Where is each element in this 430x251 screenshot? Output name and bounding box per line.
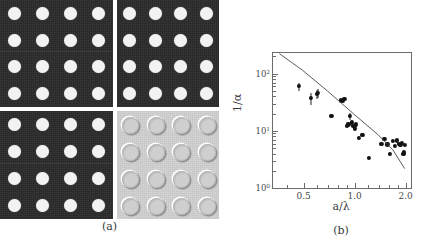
nanohole	[149, 87, 162, 100]
nanohole	[8, 87, 21, 100]
y-axis-tick-label: 101	[256, 125, 271, 136]
nanohole	[8, 60, 21, 73]
nanohole	[200, 87, 213, 100]
nanohole	[149, 7, 162, 20]
panel-a-caption: (a)	[0, 220, 219, 233]
nanohole	[36, 145, 49, 158]
y-axis-title: 1/α	[231, 94, 244, 112]
theory-curve	[272, 52, 410, 187]
nanohole	[36, 172, 49, 185]
nanohole	[8, 7, 21, 20]
nanohole	[123, 34, 136, 47]
nanohole	[199, 171, 216, 188]
panel-b-chart: 1/α 1001011020.51.02.0 a/λ (b)	[219, 0, 430, 251]
nanohole	[200, 7, 213, 20]
nanohole	[149, 34, 162, 47]
nanohole	[199, 198, 216, 215]
nanohole	[36, 87, 49, 100]
nanohole	[8, 34, 21, 47]
nanohole	[92, 34, 105, 47]
y-axis-tick-label: 100	[256, 183, 271, 194]
panel-b-caption: (b)	[272, 224, 410, 237]
nanohole	[64, 34, 77, 47]
y-axis-tick-label: 102	[256, 68, 271, 79]
x-axis-title: a/λ	[272, 200, 410, 213]
micrograph-bottom-right	[117, 111, 219, 219]
nanohole	[8, 145, 21, 158]
nanohole	[64, 7, 77, 20]
nanohole	[8, 172, 21, 185]
nanohole	[174, 34, 187, 47]
nanohole	[199, 144, 216, 161]
nanohole	[36, 34, 49, 47]
nanohole	[148, 144, 165, 161]
nanohole	[200, 34, 213, 47]
micrograph-top-right	[117, 0, 219, 107]
nanohole	[8, 118, 21, 131]
nanohole	[36, 118, 49, 131]
nanohole	[148, 117, 165, 134]
theory-curve-path	[279, 54, 404, 169]
y-axis-major-tick	[273, 188, 278, 189]
micrograph-bottom-left	[0, 111, 113, 219]
micrograph-top-left	[0, 0, 113, 107]
nanohole	[36, 199, 49, 212]
nanohole	[8, 199, 21, 212]
nanohole	[36, 7, 49, 20]
panel-a-micrographs: (a)	[0, 0, 219, 251]
nanohole	[148, 198, 165, 215]
nanohole	[199, 117, 216, 134]
nanohole	[148, 171, 165, 188]
